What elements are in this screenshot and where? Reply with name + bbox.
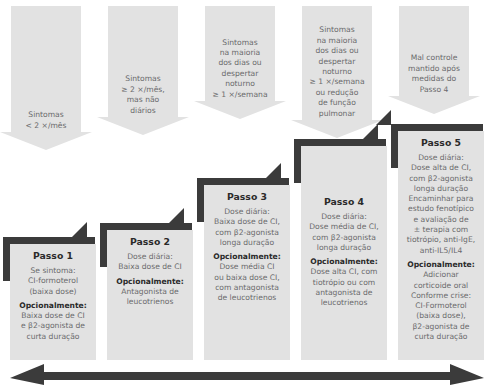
step-line: Dose média CI (207, 262, 287, 272)
step-line: CI-formoterol (13, 276, 93, 286)
trigger-line: medidas do (412, 74, 456, 83)
step-line: Dose diária: (304, 212, 384, 222)
step-line: com β2-agonista (304, 233, 384, 243)
step-line: Dose diária: (401, 153, 481, 163)
trigger-line: Sintomas (222, 38, 257, 47)
step-body-passo-3: Dose diária: Baixa dose de CI, com β2-ag… (207, 207, 287, 304)
trigger-line: Passo 4 (420, 85, 449, 94)
arrowhead-passo-3 (194, 101, 286, 119)
corner-triangle-passo-1 (72, 222, 87, 237)
step-line: e β2-agonista de (13, 321, 93, 331)
trigger-line: dos dias ou (315, 46, 358, 55)
trigger-arrow-passo-5: Mal controle mantido após medidas do Pas… (399, 6, 469, 96)
step-line: β2-agonista de (401, 322, 481, 332)
step-line: anti-IL5/IL4 (401, 246, 481, 256)
trigger-line: < 2 ×/mês (26, 121, 67, 130)
step-line: ou baixa dose CI, (207, 273, 287, 283)
step-body-passo-5: Dose diária: Dose alta de CI, com β2-ago… (401, 153, 481, 342)
step-optional-heading: Opcionalmente: (304, 257, 384, 267)
step-line: curta duração (13, 332, 93, 342)
column-passo-3: Sintomas na maioria dos dias ou desperta… (194, 0, 286, 391)
asthma-treatment-steps-diagram: Sintomas < 2 ×/mês Passo 1 Se sintoma: C… (0, 0, 494, 391)
step-line: corticoide oral (401, 281, 481, 291)
corner-triangle-passo-4 (363, 124, 378, 139)
trigger-line: ≥ 2 ×/mês, (121, 85, 164, 94)
step-line: com β2-agonista (401, 174, 481, 184)
corner-triangle-passo-5 (376, 110, 391, 125)
step-card-passo-3[interactable]: Passo 3 Dose diária: Baixa dose de CI, c… (204, 185, 290, 360)
step-body-passo-2: Dose diária: Baixa dose de CI Opcionalme… (110, 252, 190, 307)
step-title-passo-1: Passo 1 (13, 249, 93, 262)
trigger-line: ≥ 1 ×/semana (309, 77, 364, 86)
step-optional-heading: Opcionalmente: (401, 260, 481, 270)
step-line: de leucotrienos (207, 293, 287, 303)
step-line: leucotrienos (110, 297, 190, 307)
step-line: Antagonista de (110, 287, 190, 297)
step-line: e avaliação de (401, 215, 481, 225)
step-line: longa duração (401, 184, 481, 194)
step-line: (baixa dose) (13, 287, 93, 297)
step-line: com antagonista (207, 283, 287, 293)
step-optional-heading: Opcionalmente: (207, 252, 287, 262)
arrowhead-passo-5 (388, 96, 480, 114)
trigger-line: noturno (225, 79, 255, 88)
trigger-line: Sintomas (28, 110, 63, 119)
step-line: Baixa dose de CI, (207, 217, 287, 227)
step-line: longa duração (304, 243, 384, 253)
step-line: Baixa dose de CI (110, 262, 190, 272)
arrowhead-passo-2 (97, 117, 189, 135)
trigger-line: de função (318, 98, 356, 107)
step-line: Encaminhar para (401, 194, 481, 204)
step-line: tiotrópio ou com (304, 278, 384, 288)
step-card-passo-4[interactable]: Passo 4 Dose diária: Dose média de CI, c… (301, 146, 387, 360)
step-title-passo-4: Passo 4 (304, 195, 384, 208)
step-title-passo-2: Passo 2 (110, 235, 190, 248)
column-passo-5: Mal controle mantido após medidas do Pas… (388, 0, 480, 391)
corner-triangle-passo-2 (169, 208, 184, 223)
trigger-arrow-passo-1: Sintomas < 2 ×/mês (11, 6, 81, 132)
step-line: Dose diária: (110, 252, 190, 262)
trigger-line: mas não (127, 95, 160, 104)
step-line: Baixa dose de CI (13, 311, 93, 321)
arrowhead-passo-1 (0, 132, 92, 150)
column-passo-2: Sintomas ≥ 2 ×/mês, mas não diários Pass… (97, 0, 189, 391)
trigger-line: na maioria (317, 36, 358, 45)
step-card-passo-1[interactable]: Passo 1 Se sintoma: CI-formoterol (baixa… (10, 244, 96, 360)
trigger-line: mantido após (408, 64, 460, 73)
trigger-line: Sintomas (319, 25, 354, 34)
step-line: tiotrópio, anti-IgE, (401, 235, 481, 245)
step-title-passo-3: Passo 3 (207, 190, 287, 203)
trigger-line: ou redução (316, 88, 359, 97)
trigger-line: na maioria (220, 48, 261, 57)
trigger-line: Mal controle (411, 53, 458, 62)
step-optional-heading: Opcionalmente: (110, 277, 190, 287)
step-optional-heading: Opcionalmente: (13, 301, 93, 311)
trigger-line: noturno (322, 67, 352, 76)
step-line: Se sintoma: (13, 266, 93, 276)
step-line: Dose alta de CI, (401, 163, 481, 173)
step-line: com β2-agonista (207, 228, 287, 238)
step-line: curta duração (401, 332, 481, 342)
double-headed-arrow-icon (10, 363, 484, 385)
step-line: leucotrienos (304, 298, 384, 308)
step-card-passo-5[interactable]: Passo 5 Dose diária: Dose alta de CI, co… (398, 131, 484, 360)
step-line: estudo fenotípico (401, 204, 481, 214)
step-line: Dose alta CI, com (304, 267, 384, 277)
step-line: (baixa dose), (401, 311, 481, 321)
step-card-passo-2[interactable]: Passo 2 Dose diária: Baixa dose de CI Op… (107, 230, 193, 360)
trigger-line: despertar (319, 57, 356, 66)
column-passo-1: Sintomas < 2 ×/mês Passo 1 Se sintoma: C… (0, 0, 92, 391)
step-line: ± terapia com (401, 225, 481, 235)
step-body-passo-1: Se sintoma: CI-formoterol (baixa dose) O… (13, 266, 93, 342)
step-line: Dose diária: (207, 207, 287, 217)
trigger-arrow-passo-2: Sintomas ≥ 2 ×/mês, mas não diários (108, 6, 178, 117)
escalonamento-axis-arrow (10, 363, 484, 385)
step-line: CI-Formoterol (401, 301, 481, 311)
step-body-passo-4: Dose diária: Dose média de CI, com β2-ag… (304, 212, 384, 309)
step-line: Adicionar (401, 270, 481, 280)
trigger-line: ≥ 1 ×/semana (212, 90, 267, 99)
trigger-line: pulmonar (319, 109, 355, 118)
trigger-line: Sintomas (125, 74, 160, 83)
trigger-line: dos dias ou (218, 58, 261, 67)
trigger-line: diários (130, 106, 155, 115)
